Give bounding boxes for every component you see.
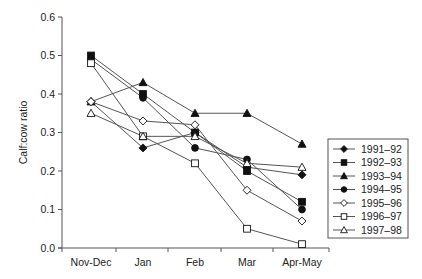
legend-label: 1991–92 [361, 143, 402, 155]
legend-label: 1992–93 [361, 156, 402, 168]
y-tick-label: 0.2 [40, 165, 55, 177]
square-marker-icon [341, 160, 347, 166]
y-tick-label: 0.0 [40, 242, 55, 254]
diamond-marker-icon [298, 171, 306, 179]
square-marker-icon [192, 160, 199, 167]
y-tick-label: 0.6 [40, 11, 55, 23]
diamond-marker-icon [298, 217, 306, 225]
series-line [91, 113, 302, 167]
x-tick-label: Apr-May [282, 256, 322, 268]
square-marker-icon [244, 168, 251, 175]
square-marker-icon [299, 241, 306, 248]
line-chart: 0.00.10.20.30.40.50.6Nov-DecJanFebMarApr… [0, 0, 422, 279]
series-line [91, 56, 302, 202]
square-marker-icon [88, 60, 95, 67]
x-tick-label: Nov-Dec [71, 256, 112, 268]
square-marker-icon [244, 225, 251, 232]
series-markers-1996–97 [88, 60, 306, 248]
y-tick-label: 0.3 [40, 126, 55, 138]
legend-label: 1996–97 [361, 210, 402, 222]
legend: 1991–921992–931993–941994–951995–961996–… [328, 139, 408, 238]
x-tick-label: Jan [135, 256, 152, 268]
circle-marker-icon [140, 94, 147, 101]
legend-label: 1995–96 [361, 197, 402, 209]
legend-label: 1993–94 [361, 170, 402, 182]
x-tick-label: Feb [186, 256, 204, 268]
y-tick-label: 0.1 [40, 203, 55, 215]
x-tick-label: Mar [238, 256, 257, 268]
circle-marker-icon [341, 187, 347, 193]
triangle-marker-icon [298, 140, 306, 147]
square-marker-icon [299, 198, 306, 205]
legend-label: 1994–95 [361, 183, 402, 195]
diamond-marker-icon [139, 117, 147, 125]
triangle-marker-icon [139, 78, 147, 85]
series-layer [87, 52, 306, 247]
y-axis-title: Calf:cow ratio [17, 101, 29, 165]
circle-marker-icon [192, 145, 199, 152]
triangle-marker-icon [87, 109, 95, 116]
y-tick-label: 0.4 [40, 88, 55, 100]
series-1997–98 [91, 113, 302, 167]
square-marker-icon [341, 214, 347, 220]
series-1992–93 [91, 56, 302, 202]
legend-label: 1997–98 [361, 224, 402, 236]
circle-marker-icon [299, 206, 306, 213]
y-tick-label: 0.5 [40, 49, 55, 61]
